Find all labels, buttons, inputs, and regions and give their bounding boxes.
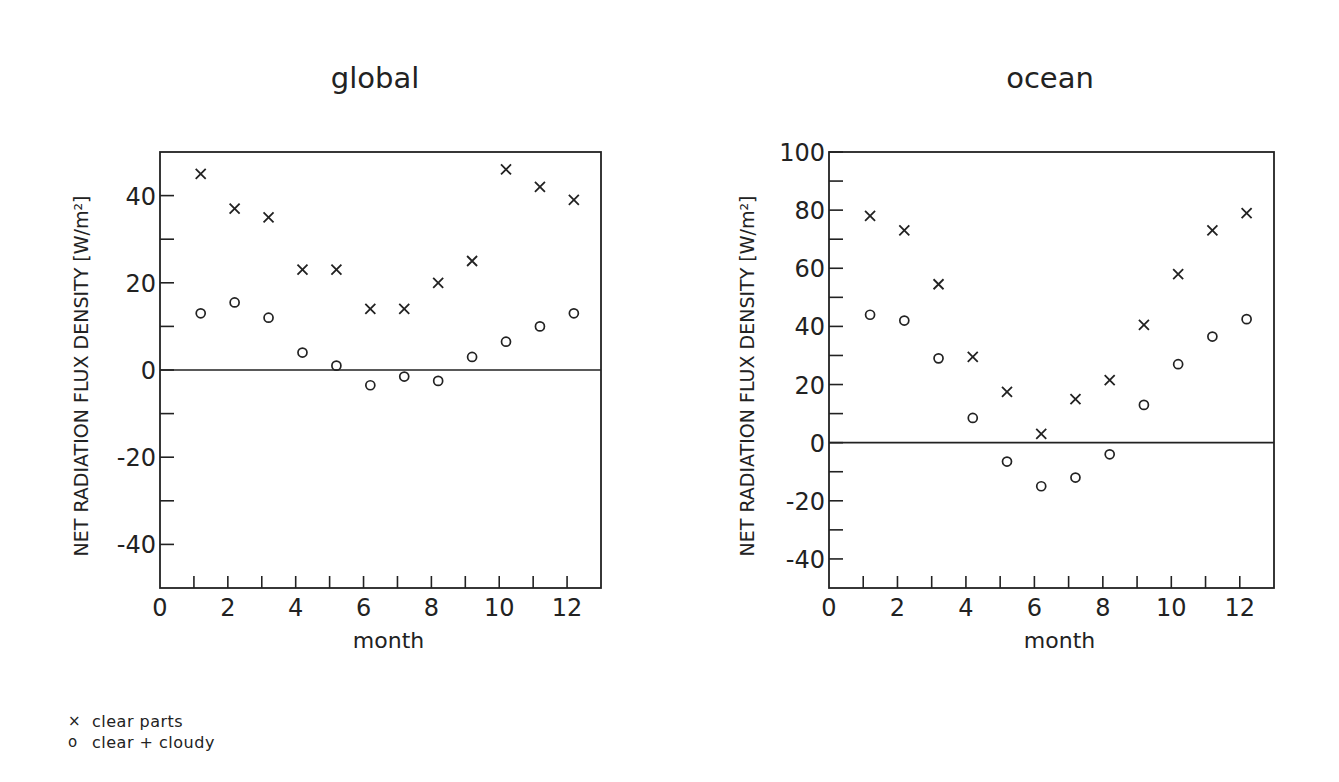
circle-marker-icon — [230, 298, 239, 307]
cross-marker-icon — [1036, 429, 1046, 439]
x-tick-label: 4 — [288, 594, 303, 622]
cross-marker-icon — [230, 204, 240, 214]
y-tick-label: -20 — [117, 444, 156, 472]
circle-marker-icon — [298, 348, 307, 357]
circle-marker-icon — [1242, 315, 1251, 324]
y-axis-label: NET RADIATION FLUX DENSITY [W/m²] — [70, 196, 92, 557]
x-tick-label: 6 — [1027, 594, 1042, 622]
circle-marker-icon — [400, 372, 409, 381]
y-tick-label: -40 — [786, 546, 825, 574]
chart-global: global-40-2002040024681012monthNET RADIA… — [70, 61, 601, 653]
series-clear-parts — [196, 164, 579, 314]
x-tick-label: 4 — [958, 594, 973, 622]
cross-marker-icon — [1173, 269, 1183, 279]
x-tick-label: 6 — [356, 594, 371, 622]
y-tick-label: -20 — [786, 488, 825, 516]
cross-marker-icon — [297, 265, 307, 275]
cross-marker-icon — [569, 195, 579, 205]
y-tick-label: 0 — [141, 357, 156, 385]
x-tick-label: 0 — [152, 594, 167, 622]
figure: global-40-2002040024681012monthNET RADIA… — [0, 0, 1339, 782]
legend-label: clear + cloudy — [92, 732, 215, 753]
charts-canvas: global-40-2002040024681012monthNET RADIA… — [0, 0, 1339, 782]
circle-marker-icon — [196, 309, 205, 318]
y-tick-label: 20 — [794, 372, 825, 400]
circle-marker-icon — [934, 354, 943, 363]
chart-ocean: ocean-40-20020406080100024681012monthNET… — [736, 61, 1274, 653]
circle-marker-icon — [434, 376, 443, 385]
y-tick-label: 80 — [794, 197, 825, 225]
circle-marker-icon — [468, 352, 477, 361]
x-tick-label: 10 — [1156, 594, 1187, 622]
x-tick-label: 8 — [424, 594, 439, 622]
series-clear-cloudy — [196, 298, 578, 390]
circle-marker-icon — [502, 337, 511, 346]
cross-marker-icon — [865, 211, 875, 221]
y-tick-label: 0 — [810, 430, 825, 458]
circle-marker-icon — [1071, 473, 1080, 482]
x-axis-label: month — [353, 628, 424, 653]
circle-marker-icon — [569, 309, 578, 318]
circle-marker-icon — [1105, 450, 1114, 459]
x-tick-label: 12 — [552, 594, 583, 622]
circle-marker-icon — [1139, 400, 1148, 409]
circle-marker-icon — [1208, 332, 1217, 341]
series-clear-cloudy — [866, 310, 1252, 490]
y-tick-label: 100 — [779, 139, 825, 167]
y-tick-label: -40 — [117, 531, 156, 559]
legend-item-clear-parts: × clear parts — [68, 711, 215, 732]
cross-marker-icon — [535, 182, 545, 192]
y-axis-label: NET RADIATION FLUX DENSITY [W/m²] — [736, 196, 758, 557]
cross-marker-icon — [968, 352, 978, 362]
cross-marker-icon — [264, 212, 274, 222]
y-tick-label: 40 — [794, 313, 825, 341]
circle-marker-icon — [366, 381, 375, 390]
cross-marker-icon — [1105, 375, 1115, 385]
cross-marker-icon — [1207, 225, 1217, 235]
cross-marker-icon — [365, 304, 375, 314]
circle-marker-icon — [264, 313, 273, 322]
circle-marker-icon — [866, 310, 875, 319]
y-tick-label: 40 — [125, 183, 156, 211]
plot-frame — [829, 152, 1274, 588]
x-tick-label: 8 — [1095, 594, 1110, 622]
circle-marker-icon — [968, 413, 977, 422]
circle-marker-icon — [1174, 360, 1183, 369]
chart-title: ocean — [1006, 61, 1094, 95]
legend: × clear parts o clear + cloudy — [68, 711, 215, 753]
circle-marker-icon: o — [68, 732, 92, 753]
circle-marker-icon — [900, 316, 909, 325]
circle-marker-icon — [1037, 482, 1046, 491]
x-tick-label: 2 — [220, 594, 235, 622]
cross-marker-icon — [399, 304, 409, 314]
y-tick-label: 20 — [125, 270, 156, 298]
y-tick-label: 60 — [794, 255, 825, 283]
legend-item-clear-cloudy: o clear + cloudy — [68, 732, 215, 753]
cross-marker-icon — [899, 225, 909, 235]
circle-marker-icon — [1003, 457, 1012, 466]
cross-marker-icon — [467, 256, 477, 266]
cross-marker-icon — [1139, 320, 1149, 330]
x-tick-label: 0 — [821, 594, 836, 622]
cross-marker-icon — [1002, 387, 1012, 397]
circle-marker-icon — [332, 361, 341, 370]
cross-marker-icon — [1242, 208, 1252, 218]
x-tick-label: 12 — [1224, 594, 1255, 622]
cross-marker-icon — [331, 265, 341, 275]
cross-marker-icon — [501, 164, 511, 174]
cross-marker-icon — [433, 278, 443, 288]
cross-marker-icon — [934, 279, 944, 289]
legend-label: clear parts — [92, 711, 183, 732]
cross-marker-icon — [1070, 394, 1080, 404]
circle-marker-icon — [535, 322, 544, 331]
x-tick-label: 10 — [484, 594, 515, 622]
series-clear-parts — [865, 208, 1252, 439]
chart-title: global — [331, 61, 419, 95]
cross-marker-icon: × — [68, 711, 92, 732]
x-tick-label: 2 — [890, 594, 905, 622]
cross-marker-icon — [196, 169, 206, 179]
x-axis-label: month — [1024, 628, 1095, 653]
